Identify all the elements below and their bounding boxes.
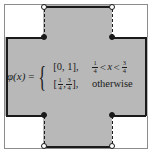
dashed-line-top-left — [44, 9, 45, 37]
equation-open-brace: { — [38, 63, 46, 89]
case-value-second: [ 1 4 , 3 4 ], — [46, 77, 86, 92]
case-condition-second: otherwise — [86, 79, 133, 90]
fraction-three-quarters-interval: 3 4 — [66, 77, 71, 92]
edge-arm-top-right — [111, 37, 146, 39]
piecewise-equation: φ(x) = { [0, 1], 1 4 < x < 3 4 — [7, 55, 152, 97]
equation-cases: [0, 1], 1 4 < x < 3 4 — [46, 60, 133, 92]
edge-arm-bottom-left — [6, 115, 44, 117]
fraction-numerator: 3 — [122, 60, 127, 67]
condition-otherwise: otherwise — [92, 79, 133, 90]
bracket-close: ], — [72, 79, 78, 90]
fraction-numerator: 1 — [92, 60, 97, 67]
open-circle-bottom-left — [41, 143, 47, 149]
figure-root: φ(x) = { [0, 1], 1 4 < x < 3 4 — [0, 0, 155, 156]
dashed-line-top-right — [112, 9, 113, 37]
filled-circle-top-left — [41, 34, 47, 40]
filled-circle-bottom-right — [109, 112, 115, 118]
equation-lhs: φ(x) — [7, 71, 27, 82]
open-circle-bottom-right — [109, 143, 115, 149]
fraction-denominator: 4 — [92, 67, 97, 75]
dashed-line-bottom-right — [112, 116, 113, 144]
open-circle-top-right — [109, 4, 115, 10]
operator-less-than-right: < — [112, 62, 121, 73]
dashed-line-bottom-left — [44, 116, 45, 144]
edge-arm-bottom-right — [111, 115, 146, 117]
fraction-one-quarter-interval: 1 4 — [58, 77, 63, 92]
operator-less-than-left: < — [98, 62, 107, 73]
case-condition-first: 1 4 < x < 3 4 — [86, 60, 128, 75]
edge-arm-top-left — [6, 37, 44, 39]
case-row-second: [ 1 4 , 3 4 ], otherwise — [46, 77, 133, 92]
case-row-first: [0, 1], 1 4 < x < 3 4 — [46, 60, 133, 75]
bracket-open: [ — [54, 79, 58, 90]
fraction-denominator: 4 — [122, 67, 127, 75]
fraction-one-quarter-lower: 1 4 — [92, 60, 97, 75]
case-value-first-literal: [0, 1], — [53, 62, 78, 73]
fraction-numerator: 1 — [58, 77, 63, 84]
edge-top — [43, 6, 112, 8]
open-circle-top-left — [41, 4, 47, 10]
fraction-numerator: 3 — [66, 77, 71, 84]
filled-circle-top-right — [109, 34, 115, 40]
edge-bottom — [43, 146, 112, 148]
fraction-denominator: 4 — [58, 84, 63, 92]
case-value-first: [0, 1], — [46, 62, 86, 73]
filled-circle-bottom-left — [41, 112, 47, 118]
equation-equals: = — [27, 71, 36, 82]
fraction-three-quarters-upper: 3 4 — [122, 60, 127, 75]
fraction-denominator: 4 — [66, 84, 71, 92]
